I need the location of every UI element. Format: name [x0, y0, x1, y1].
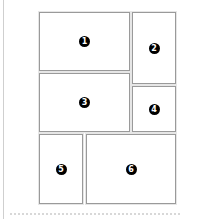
number-badge-icon: 2: [149, 43, 160, 54]
panel-6: 6: [86, 134, 176, 204]
page-edge-line: [3, 0, 4, 219]
number-badge-icon: 3: [79, 97, 90, 108]
number-badge-icon: 4: [149, 104, 160, 115]
panel-2: 2: [132, 12, 176, 84]
illegible-caption-line: [10, 213, 180, 218]
panel-3: 3: [39, 73, 130, 132]
panel-1: 1: [39, 12, 130, 71]
number-badge-icon: 6: [126, 164, 137, 175]
panel-4: 4: [132, 86, 176, 132]
panel-5: 5: [39, 134, 83, 204]
number-badge-icon: 1: [79, 36, 90, 47]
number-badge-icon: 5: [56, 164, 67, 175]
